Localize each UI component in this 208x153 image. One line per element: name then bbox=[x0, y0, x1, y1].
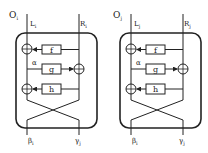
alpha-label: α bbox=[32, 59, 37, 67]
function-g: g α bbox=[27, 59, 84, 74]
right-output-label: γj bbox=[75, 137, 81, 147]
outer-label: Oi bbox=[9, 10, 18, 21]
function-label: g bbox=[153, 65, 158, 74]
function-h: h bbox=[126, 84, 183, 94]
alpha-label: α bbox=[136, 59, 141, 67]
outer-label: Oj bbox=[113, 10, 122, 22]
function-g: g α bbox=[131, 59, 188, 74]
function-f: f bbox=[22, 44, 79, 55]
left-output-label: βi bbox=[132, 137, 138, 146]
function-h: h bbox=[22, 84, 79, 94]
left-input-label: Lj bbox=[134, 20, 141, 30]
left-output-label: βi bbox=[28, 137, 34, 146]
right-input-label: Ri bbox=[80, 20, 87, 29]
function-f: f bbox=[126, 44, 183, 55]
function-label: h bbox=[153, 85, 158, 94]
function-label: g bbox=[49, 65, 54, 74]
right-output-label: γj bbox=[179, 137, 185, 147]
block-diagram-j: f g α h Oj Lj Rj βi γj bbox=[113, 10, 201, 147]
function-label: h bbox=[49, 85, 54, 94]
left-input-label: Li bbox=[30, 20, 37, 29]
block-diagram-i: f g α h Oi Li Ri βi γj bbox=[9, 10, 97, 147]
right-input-label: Rj bbox=[184, 20, 191, 30]
diagram-canvas: f g α h Oi Li Ri βi γj bbox=[0, 0, 208, 153]
